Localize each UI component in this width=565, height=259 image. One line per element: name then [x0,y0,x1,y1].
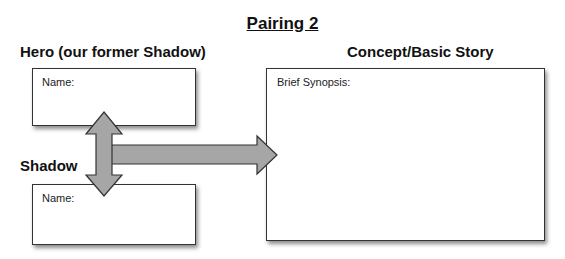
right-arrow-icon [110,136,277,174]
connector-arrows [0,0,565,259]
